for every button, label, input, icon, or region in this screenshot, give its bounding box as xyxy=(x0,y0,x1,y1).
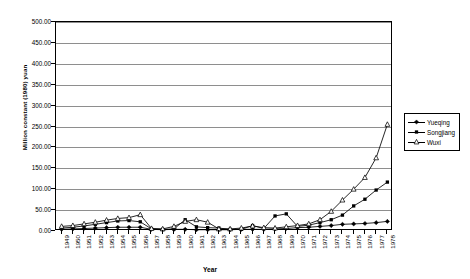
legend: YueqingSongjiangWuxi xyxy=(404,113,460,151)
x-axis-tick-mark xyxy=(184,230,185,234)
x-axis-tick-mark xyxy=(341,230,342,234)
x-axis-tick-label: 1969 xyxy=(288,235,295,249)
legend-marker-filled-square-icon xyxy=(408,127,425,137)
x-axis-tick-mark xyxy=(61,230,62,234)
x-axis-tick-label: 1961 xyxy=(198,235,205,249)
data-point xyxy=(363,198,366,201)
y-axis-tick-label: 200.00 xyxy=(32,143,51,150)
y-axis-tick-label: 150.00 xyxy=(32,164,51,171)
x-axis-tick-label: 1965 xyxy=(243,235,250,249)
data-point xyxy=(341,213,344,216)
legend-item-wuxi[interactable]: Wuxi xyxy=(408,137,455,147)
x-axis-tick-label: 1956 xyxy=(142,235,149,249)
data-point xyxy=(329,223,333,227)
x-axis-tick-label: 1974 xyxy=(344,235,351,249)
y-axis-tick-label: 250.00 xyxy=(32,122,51,129)
x-axis-tick-mark xyxy=(83,230,84,234)
x-axis-tick-mark xyxy=(330,230,331,234)
x-axis-tick-mark xyxy=(162,230,163,234)
x-axis-tick-label: 1962 xyxy=(209,235,216,249)
x-axis-tick-label: 1976 xyxy=(366,235,373,249)
x-axis-tick-label: 1955 xyxy=(130,235,137,249)
x-axis-tick-mark xyxy=(364,230,365,234)
legend-marker-filled-diamond-icon xyxy=(408,117,425,127)
x-axis-tick-label: 1967 xyxy=(265,235,272,249)
x-axis-tick-mark xyxy=(319,230,320,234)
x-axis-tick-mark xyxy=(229,230,230,234)
x-axis-tick-label: 1949 xyxy=(63,235,70,249)
data-point xyxy=(318,224,322,228)
x-axis-tick-label: 1958 xyxy=(164,235,171,249)
data-point xyxy=(139,220,142,223)
data-point xyxy=(352,204,355,207)
x-axis-tick-mark xyxy=(173,230,174,234)
x-axis-tick-label: 1950 xyxy=(74,235,81,249)
data-point xyxy=(116,225,120,229)
x-axis-tick-label: 1964 xyxy=(232,235,239,249)
series-songjiang xyxy=(60,180,389,231)
legend-marker-open-triangle-icon xyxy=(408,137,425,147)
y-axis-tick-label: 0.00 xyxy=(39,227,51,234)
x-axis-tick-label: 1951 xyxy=(85,235,92,249)
x-axis-tick-mark xyxy=(263,230,264,234)
legend-label: Wuxi xyxy=(427,139,441,146)
y-axis-tick-mark xyxy=(51,230,55,231)
x-axis-tick-label: 1957 xyxy=(153,235,160,249)
legend-label: Songjiang xyxy=(427,129,455,136)
x-axis-tick-mark xyxy=(386,230,387,234)
x-axis-tick-label: 1960 xyxy=(187,235,194,249)
y-axis-tick-label: 50.00 xyxy=(35,206,51,213)
x-axis-tick-mark xyxy=(139,230,140,234)
x-axis-tick-mark xyxy=(297,230,298,234)
x-axis-tick-label: 1978 xyxy=(389,235,396,249)
x-axis-title: Year xyxy=(0,266,420,273)
x-axis-tick-mark xyxy=(106,230,107,234)
legend-item-yueqing[interactable]: Yueqing xyxy=(408,117,455,127)
data-point xyxy=(374,155,379,160)
x-axis-tick-label: 1970 xyxy=(299,235,306,249)
data-point xyxy=(285,212,288,215)
legend-label: Yueqing xyxy=(427,119,450,126)
x-axis-tick-mark xyxy=(128,230,129,234)
data-point xyxy=(138,225,142,229)
series-yueqing xyxy=(60,219,390,232)
data-point xyxy=(194,217,199,222)
x-axis-tick-mark xyxy=(240,230,241,234)
data-point xyxy=(340,222,344,226)
x-axis-tick-label: 1963 xyxy=(220,235,227,249)
y-axis-tick-label: 400.00 xyxy=(32,59,51,66)
y-axis-tick-label: 350.00 xyxy=(32,80,51,87)
x-axis-tick-mark xyxy=(218,230,219,234)
line-chart: Million constant (1980) yuan 0.0050.0010… xyxy=(0,0,470,279)
x-axis-tick-label: 1977 xyxy=(378,235,385,249)
x-axis-tick-mark xyxy=(252,230,253,234)
data-point xyxy=(363,175,368,180)
x-axis-tick-mark xyxy=(72,230,73,234)
series-wuxi xyxy=(59,122,390,231)
legend-item-songjiang[interactable]: Songjiang xyxy=(408,127,455,137)
data-point xyxy=(330,218,333,221)
data-point xyxy=(363,221,367,225)
data-point xyxy=(318,217,323,222)
x-axis-tick-mark xyxy=(117,230,118,234)
data-point xyxy=(375,188,378,191)
data-point xyxy=(206,226,209,229)
x-axis-tick-mark xyxy=(195,230,196,234)
x-axis-tick-label: 1968 xyxy=(276,235,283,249)
x-axis-tick-mark xyxy=(308,230,309,234)
x-axis-tick-mark xyxy=(207,230,208,234)
y-axis-tick-label: 450.00 xyxy=(32,38,51,45)
x-axis-tick-mark xyxy=(353,230,354,234)
data-point xyxy=(195,225,198,228)
x-axis-tick-label: 1953 xyxy=(108,235,115,249)
data-point xyxy=(127,225,131,229)
data-point xyxy=(273,214,276,217)
y-axis-title: Million constant (1980) yuan xyxy=(21,38,28,178)
x-axis-tick-mark xyxy=(94,230,95,234)
x-axis-tick-label: 1966 xyxy=(254,235,261,249)
x-axis-tick-label: 1954 xyxy=(119,235,126,249)
x-axis-tick-label: 1959 xyxy=(175,235,182,249)
data-point xyxy=(385,122,390,127)
y-axis-tick-label: 300.00 xyxy=(32,101,51,108)
plot-area xyxy=(55,21,392,230)
